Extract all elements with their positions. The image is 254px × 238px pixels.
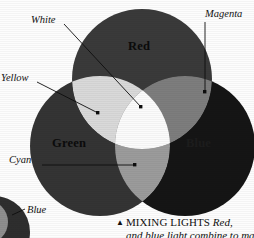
- venn-svg: [0, 0, 254, 238]
- caption-italic-tail: Red,: [213, 216, 233, 228]
- figure-caption: ▲MIXING LIGHTS Red, and blue light combi…: [116, 216, 254, 238]
- caption-triangle-marker: ▲: [116, 218, 124, 227]
- dot-white: [139, 105, 142, 108]
- dot-magenta: [203, 90, 206, 93]
- caption-headword: MIXING LIGHTS: [126, 216, 210, 228]
- caption-line-2: and blue light combine to make: [126, 229, 254, 238]
- caption-line-1: ▲MIXING LIGHTS Red,: [116, 216, 254, 229]
- dot-cyan: [133, 163, 136, 166]
- venn-diagram: [0, 0, 254, 238]
- figure-panel: Red Green Blue White Yellow Magenta Cyan…: [0, 0, 254, 238]
- dot-yellow: [96, 111, 99, 114]
